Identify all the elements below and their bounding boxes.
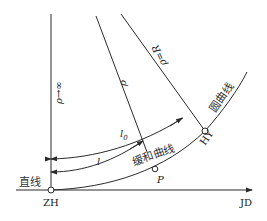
label-l0: l0 [120,128,128,142]
label-rho-infinity: ρ→∞ [53,81,64,105]
transition-curve-diagram: 直线 ZH JD P HY 缓和曲线 圆曲线 l0 l ρ ρ→∞ ρ=R [0,0,267,221]
label-rho-equals-r: ρ=R [149,43,169,69]
label-zh: ZH [43,197,59,208]
l0-arrow-head-right [170,118,182,126]
label-straight: 直线 [19,175,41,189]
label-p: P [156,174,164,185]
label-jd: JD [239,197,252,208]
label-l0-sub: 0 [123,134,128,142]
label-rho: ρ [117,80,128,87]
point-p [152,166,158,172]
label-l: l [97,156,100,167]
radius-line-hy [121,14,205,131]
label-hy: HY [198,128,216,147]
point-zh [48,187,54,193]
route-curve [51,72,247,190]
